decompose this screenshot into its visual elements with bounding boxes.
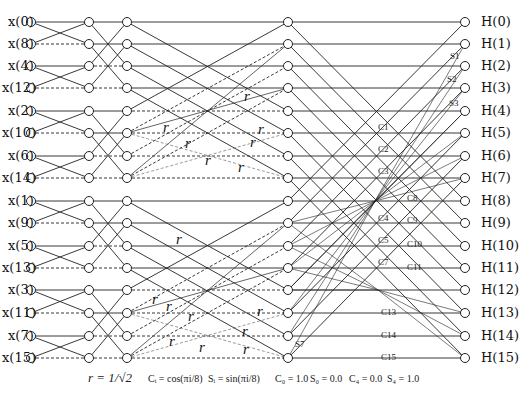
footer-c-definition: Cᵢ = cos(πi/8) (148, 373, 203, 384)
input-label: x(5) (8, 239, 34, 253)
input-label: x(11) (2, 306, 36, 320)
r-label: r (250, 134, 256, 151)
node (284, 309, 293, 318)
sin-label: S1 (450, 51, 460, 61)
r-label: r (176, 231, 182, 248)
node (284, 62, 293, 71)
output-label: H(3) (481, 81, 511, 95)
node (85, 332, 94, 341)
node (123, 219, 132, 228)
output-label: H(9) (481, 216, 511, 230)
r-label: r (242, 323, 248, 340)
node (85, 129, 94, 138)
r-label: r (205, 152, 211, 169)
node (85, 286, 94, 295)
node (85, 18, 94, 27)
node (284, 152, 293, 161)
output-label: H(1) (481, 37, 511, 51)
node (461, 264, 470, 273)
input-label: x(8) (8, 37, 34, 51)
coeff-label: C7 (378, 257, 389, 267)
output-label: H(15) (481, 351, 519, 365)
node (284, 18, 293, 27)
node (284, 197, 293, 206)
input-label: x(0) (8, 15, 34, 29)
sin-label: S2 (447, 74, 457, 84)
output-label: H(4) (481, 104, 511, 118)
r-label: r (199, 339, 205, 356)
node (85, 84, 94, 93)
node (123, 18, 132, 27)
node (461, 219, 470, 228)
r-label: r (238, 159, 244, 176)
input-label: x(3) (8, 283, 34, 297)
node (461, 152, 470, 161)
node (85, 107, 94, 116)
sin-label: S7 (295, 339, 305, 349)
node (123, 197, 132, 206)
node (123, 174, 132, 183)
node (85, 197, 94, 206)
coeff-label: C3 (378, 166, 389, 176)
coeff-label: C15 (381, 352, 396, 362)
input-label: x(4) (8, 59, 34, 73)
r-label: r (152, 291, 158, 308)
coeff-label: C9 (407, 215, 418, 225)
node (284, 40, 293, 49)
coeff-label: C4 (378, 213, 389, 223)
coeff-label: C10 (407, 239, 422, 249)
node (284, 174, 293, 183)
node (85, 264, 94, 273)
sin-label: S3 (449, 98, 459, 108)
node (284, 354, 293, 363)
output-label: H(10) (481, 239, 519, 253)
output-label: H(7) (481, 171, 511, 185)
node (123, 84, 132, 93)
node (85, 174, 94, 183)
r-label: r (166, 298, 172, 315)
node (123, 242, 132, 251)
node (461, 332, 470, 341)
input-label: x(1) (8, 194, 34, 208)
input-label: x(2) (8, 104, 34, 118)
r-label: r (188, 308, 194, 325)
node (284, 332, 293, 341)
r-label: r (243, 341, 249, 358)
node (461, 129, 470, 138)
node (85, 219, 94, 228)
coeff-label: C13 (381, 307, 396, 317)
output-label: H(0) (481, 15, 511, 29)
r-label: r (258, 121, 264, 138)
node (461, 84, 470, 93)
coeff-label: C5 (378, 235, 389, 245)
node (85, 62, 94, 71)
coeff-label: C2 (378, 144, 389, 154)
coeff-label: C1 (378, 122, 389, 132)
node (123, 309, 132, 318)
node (85, 40, 94, 49)
node (284, 264, 293, 273)
node (123, 40, 132, 49)
butterfly-graph (0, 0, 523, 393)
output-label: H(2) (481, 59, 511, 73)
input-label: x(15) (2, 351, 36, 365)
node (85, 242, 94, 251)
node (461, 174, 470, 183)
node (461, 107, 470, 116)
r-label: r (169, 333, 175, 350)
node (123, 62, 132, 71)
output-label: H(13) (481, 306, 519, 320)
input-label: x(13) (2, 261, 36, 275)
footer-s-definition: Sᵢ = sin(πi/8) (208, 373, 260, 384)
input-label: x(7) (8, 329, 34, 343)
input-label: x(14) (2, 171, 36, 185)
node (461, 197, 470, 206)
r-label: r (163, 119, 169, 136)
node (284, 286, 293, 295)
node (123, 332, 132, 341)
node (85, 354, 94, 363)
node (85, 152, 94, 161)
node (123, 286, 132, 295)
r-label: r (257, 303, 263, 320)
node (284, 242, 293, 251)
